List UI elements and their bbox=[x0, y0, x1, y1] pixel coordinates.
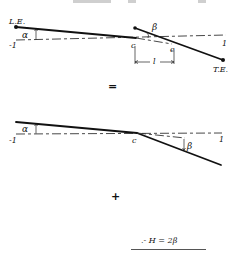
beta-label: β bbox=[186, 141, 192, 151]
flap-airfoil-diagram: L.E. α -1 β c e l 1 T.E. = α -1 c β 1 + … bbox=[0, 0, 242, 253]
panel-3-partial: .- H = 2β bbox=[131, 236, 206, 250]
flap-line bbox=[135, 28, 223, 60]
leading-edge-label: L.E. bbox=[8, 17, 25, 26]
top-fragment-mark bbox=[128, 0, 136, 3]
panel-2-bent-plate: α -1 c β 1 bbox=[9, 122, 224, 165]
plus-sign: + bbox=[111, 190, 120, 203]
top-fragment-mark bbox=[73, 0, 111, 3]
alpha-label: α bbox=[22, 124, 28, 134]
hinge-label: c bbox=[131, 41, 136, 50]
left-axis-label: -1 bbox=[9, 136, 17, 145]
flap-length-label: l bbox=[153, 57, 156, 66]
flap-point-label: e bbox=[170, 45, 175, 54]
hinge-label: c bbox=[132, 136, 137, 145]
flap-start-dot bbox=[133, 26, 137, 30]
top-fragment-mark bbox=[198, 0, 206, 3]
equation-label: .- H = 2β bbox=[141, 236, 178, 245]
panel-1-airfoil-with-flap: L.E. α -1 β c e l 1 T.E. bbox=[8, 17, 228, 74]
beta-label: β bbox=[151, 22, 157, 32]
equals-sign: = bbox=[108, 80, 117, 93]
right-axis-label: 1 bbox=[219, 135, 224, 144]
left-axis-label: -1 bbox=[9, 41, 17, 50]
forward-plate-line bbox=[16, 122, 137, 133]
trailing-edge-dot bbox=[221, 58, 225, 62]
main-airfoil-line bbox=[16, 27, 136, 38]
trailing-edge-label: T.E. bbox=[213, 65, 228, 74]
alpha-label: α bbox=[22, 30, 28, 40]
top-fragment bbox=[73, 0, 206, 3]
right-axis-label: 1 bbox=[222, 39, 227, 48]
chord-reference-line bbox=[16, 133, 222, 134]
